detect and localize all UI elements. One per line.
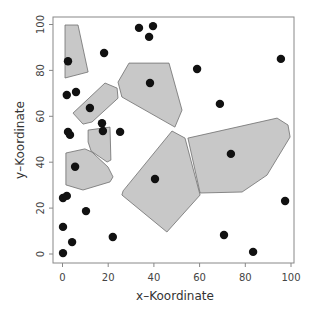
data-point [216, 100, 224, 108]
data-point [100, 49, 108, 57]
data-point [66, 131, 74, 139]
y-axis: 020406080100 [35, 15, 53, 257]
data-point [227, 150, 235, 158]
data-point [64, 57, 72, 65]
voronoi-cell-right [188, 118, 290, 193]
data-point [68, 238, 76, 246]
data-point [109, 233, 117, 241]
data-point [145, 33, 153, 41]
voronoi-cell-top-center [118, 63, 182, 127]
x-axis-title: x–Koordinate [136, 289, 214, 303]
data-point [98, 119, 106, 127]
data-point [71, 163, 79, 171]
voronoi-scatter-chart: 020406080100 020406080100 x–Koordinate y… [0, 0, 310, 316]
data-point [99, 127, 107, 135]
data-point [249, 248, 257, 256]
data-point [63, 192, 71, 200]
data-point [72, 88, 80, 96]
data-point [135, 24, 143, 32]
voronoi-cell-diagonal [73, 83, 118, 124]
y-tick-label: 80 [35, 64, 46, 77]
x-tick-label: 60 [193, 272, 206, 283]
data-point [277, 55, 285, 63]
y-tick-label: 0 [35, 251, 46, 257]
data-point [146, 79, 154, 87]
data-point [82, 207, 90, 215]
data-point [151, 175, 159, 183]
data-point [149, 22, 157, 30]
y-tick-label: 40 [35, 156, 46, 169]
data-point [116, 128, 124, 136]
data-point [59, 249, 67, 257]
x-tick-label: 0 [59, 272, 65, 283]
x-axis: 020406080100 [59, 263, 300, 283]
x-tick-label: 20 [102, 272, 115, 283]
data-point [193, 65, 201, 73]
y-tick-label: 20 [35, 202, 46, 215]
x-tick-label: 40 [148, 272, 161, 283]
y-tick-label: 100 [35, 15, 46, 34]
y-axis-title: y–Koordinate [13, 101, 27, 179]
data-point [59, 223, 67, 231]
data-point [220, 231, 228, 239]
x-tick-label: 80 [239, 272, 252, 283]
voronoi-cell-center-diamond [122, 131, 200, 232]
voronoi-cell-top-left [65, 25, 88, 78]
y-tick-label: 60 [35, 110, 46, 123]
data-point [281, 197, 289, 205]
x-tick-label: 100 [281, 272, 300, 283]
data-point [63, 91, 71, 99]
data-point [86, 104, 94, 112]
polygon-layer [65, 25, 290, 232]
